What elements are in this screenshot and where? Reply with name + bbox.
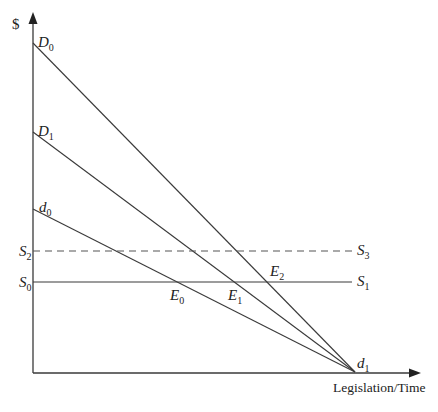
label-d1: d1 [357, 355, 370, 374]
supply-demand-diagram: $ Legislation/Time D0 D1 d0 d1 S2 S0 S3 … [0, 0, 438, 412]
label-S1: S1 [357, 273, 370, 292]
label-S0: S0 [19, 274, 32, 293]
label-S3: S3 [357, 242, 370, 261]
demand-line-D0 [33, 43, 355, 372]
y-axis-arrow-icon [29, 12, 38, 24]
x-axis-label: Legislation/Time [333, 380, 426, 395]
diagram-stage: $ Legislation/Time D0 D1 d0 d1 S2 S0 S3 … [0, 0, 438, 412]
label-D1: D1 [37, 123, 54, 142]
y-axis-label: $ [12, 16, 20, 32]
label-E1: E1 [227, 287, 242, 306]
label-S2: S2 [19, 243, 32, 262]
label-E2: E2 [269, 263, 284, 282]
x-axis-arrow-icon [409, 369, 421, 378]
demand-line-D1 [33, 132, 355, 372]
demand-line-d0 [33, 209, 355, 372]
label-E0: E0 [169, 287, 184, 306]
